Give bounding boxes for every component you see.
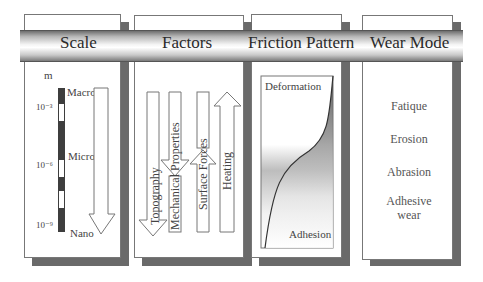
tick-macro: 10⁻³: [36, 102, 52, 112]
factors-shadow-bottom: [142, 258, 252, 266]
scale-unit: m: [44, 69, 53, 81]
wear-abrasion: Abrasion: [362, 165, 456, 179]
wearmode-panel: [362, 56, 453, 260]
wear-adhesive: Adhesive wear: [379, 194, 439, 222]
factor-mechanical-properties: Mechanical Properties: [168, 122, 183, 230]
tick-nano: 10⁻⁹: [36, 220, 53, 230]
header-factors: Factors: [162, 33, 212, 53]
ruler-gap: [59, 160, 64, 177]
factor-topography: Topography: [148, 167, 163, 225]
wear-fatique: Fatique: [362, 99, 456, 113]
scale-shadow-bottom: [32, 258, 129, 266]
wear-erosion: Erosion: [362, 132, 456, 146]
ruler-gap: [59, 191, 64, 208]
header-wear-mode: Wear Mode: [370, 33, 449, 53]
scale-down-arrow-icon: [88, 86, 118, 238]
tick-micro: 10⁻⁶: [36, 160, 53, 170]
header-friction-pattern: Friction Pattern: [248, 33, 354, 53]
header-scale: Scale: [60, 33, 97, 53]
friction-shadow-bottom: [259, 258, 350, 266]
friction-deformation-label: Deformation: [265, 80, 321, 92]
ruler-gap: [59, 104, 64, 121]
factor-surface-forces: Surface Forces: [196, 138, 211, 210]
friction-adhesion-label: Adhesion: [289, 228, 331, 240]
factor-heating: Heating: [220, 152, 235, 190]
